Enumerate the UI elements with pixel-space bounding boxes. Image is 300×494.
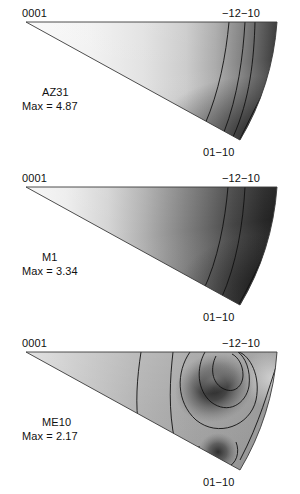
panel-title-me10: ME10	[42, 416, 71, 429]
axis-label-apex: 0001	[22, 172, 47, 185]
axis-label-bottom-right: 01−10	[203, 476, 234, 489]
pole-figure-panel-me10: 0001 −12−10 01−10 ME10 Max = 2.17	[0, 330, 300, 494]
panel-max-m1: Max = 3.34	[22, 265, 78, 278]
intensity-field-az31	[0, 0, 300, 165]
panel-max-me10: Max = 2.17	[22, 430, 78, 443]
intensity-field-m1	[0, 165, 300, 330]
panel-title-m1: M1	[42, 251, 57, 264]
axis-label-apex: 0001	[22, 337, 47, 350]
intensity-field-me10	[0, 330, 300, 494]
panel-max-az31: Max = 4.87	[22, 100, 78, 113]
pole-figure-plot-m1	[0, 165, 300, 330]
axis-label-top-right: −12−10	[222, 7, 260, 20]
pole-figure-panel-m1: 0001 −12−10 01−10 M1 Max = 3.34	[0, 165, 300, 330]
axis-label-bottom-right: 01−10	[203, 146, 234, 159]
axis-label-top-right: −12−10	[222, 172, 260, 185]
pole-figure-plot-me10	[0, 330, 300, 494]
pole-figure-panel-az31: 0001 −12−10 01−10 AZ31 Max = 4.87	[0, 0, 300, 165]
axis-label-apex: 0001	[22, 7, 47, 20]
panel-title-az31: AZ31	[42, 86, 69, 99]
pole-figure-set: 0001 −12−10 01−10 AZ31 Max = 4.87	[0, 0, 300, 494]
axis-label-top-right: −12−10	[222, 337, 260, 350]
pole-figure-plot-az31	[0, 0, 300, 165]
axis-label-bottom-right: 01−10	[203, 311, 234, 324]
